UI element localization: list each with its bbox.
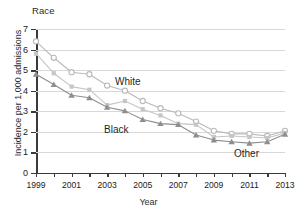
x-tick-label: 2005 <box>133 180 152 190</box>
series-label-black: Black <box>104 124 128 135</box>
series-label-white: White <box>115 76 141 87</box>
y-tick-label: 6 <box>23 45 28 54</box>
x-tick-label: 2003 <box>98 180 117 190</box>
x-tick <box>161 173 162 177</box>
data-point <box>87 72 92 77</box>
data-point <box>247 135 251 139</box>
chart-title: Race <box>32 5 55 16</box>
data-point <box>193 132 199 137</box>
data-point <box>68 92 74 97</box>
y-tick-label: 5 <box>23 66 28 75</box>
data-point <box>51 82 57 87</box>
data-point <box>141 107 145 111</box>
data-point <box>211 128 216 133</box>
x-axis-title: Year <box>0 197 297 207</box>
y-tick-label: 7 <box>23 25 28 34</box>
y-tick-label: 1 <box>23 148 28 157</box>
x-tick <box>72 173 73 177</box>
x-tick <box>285 173 286 177</box>
x-tick <box>54 173 55 177</box>
y-tick-label: 2 <box>23 127 28 136</box>
x-tick <box>107 173 108 177</box>
x-tick <box>178 173 179 177</box>
x-tick <box>249 173 250 177</box>
x-tick <box>125 173 126 177</box>
data-point <box>51 55 56 60</box>
data-point <box>69 85 73 89</box>
data-point <box>52 71 56 75</box>
x-tick <box>143 173 144 177</box>
x-tick-label: 2011 <box>240 180 258 190</box>
data-point <box>140 117 146 122</box>
data-point <box>105 83 110 88</box>
y-axis-title: Incidence per 1,000 admissions <box>13 13 23 173</box>
data-point <box>158 113 162 117</box>
data-point <box>34 52 38 56</box>
data-point <box>33 71 39 76</box>
data-point <box>194 123 198 127</box>
x-tick-label: 1999 <box>26 180 45 190</box>
data-point <box>158 106 163 111</box>
y-tick-label: 3 <box>23 107 28 116</box>
data-point <box>87 88 91 92</box>
x-tick <box>214 173 215 177</box>
x-tick <box>196 173 197 177</box>
chart-container: Race Incidence per 1,000 admissions 0123… <box>0 0 297 218</box>
x-tick-label: 2013 <box>275 180 294 190</box>
data-point <box>122 88 127 93</box>
data-point <box>140 98 145 103</box>
data-point <box>230 134 234 138</box>
data-point <box>69 70 74 75</box>
x-tick-label: 2009 <box>204 180 223 190</box>
x-tick-label: 2001 <box>62 180 81 190</box>
x-tick <box>232 173 233 177</box>
series-label-other: Other <box>234 148 259 159</box>
data-point <box>176 111 181 116</box>
data-point <box>33 39 38 44</box>
y-tick-label: 0 <box>23 169 28 178</box>
x-tick <box>36 173 37 177</box>
y-tick-label: 4 <box>23 86 28 95</box>
x-tick-label: 2007 <box>169 180 188 190</box>
x-tick <box>267 173 268 177</box>
x-tick <box>89 173 90 177</box>
data-point <box>123 99 127 103</box>
